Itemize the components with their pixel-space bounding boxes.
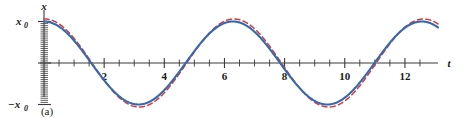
figure-container: 24681012 x t x 0 −x 0 (a)	[0, 0, 476, 118]
x-axis-label: t	[447, 57, 451, 69]
y-tick-label-positive-sub: 0	[24, 21, 28, 30]
y-axis-label: x	[40, 0, 47, 12]
x-axis-tick-label: 10	[339, 70, 351, 82]
x-axis-tick-label: 6	[222, 70, 228, 82]
x-axis-tick-label: 12	[399, 70, 411, 82]
x-axis-tick-label: 4	[162, 70, 168, 82]
y-tick-label-negative-sub: 0	[24, 104, 28, 113]
y-tick-label-negative-base: −x	[8, 98, 21, 110]
y-tick-label-positive: x 0	[15, 15, 28, 30]
y-tick-label-positive-base: x	[15, 15, 22, 27]
oscillation-plot: 24681012 x t x 0 −x 0 (a)	[0, 0, 476, 118]
y-tick-label-negative: −x 0	[8, 98, 28, 113]
panel-caption: (a)	[41, 105, 54, 118]
